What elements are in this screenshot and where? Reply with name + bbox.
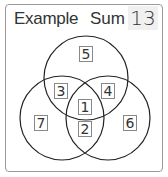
region-right-only: 6 xyxy=(123,115,137,131)
region-top-only: 5 xyxy=(79,46,93,62)
region-left-right: 2 xyxy=(78,121,92,137)
venn-diagram xyxy=(0,0,168,177)
region-top-left: 3 xyxy=(54,83,68,99)
region-top-right: 4 xyxy=(101,83,115,99)
region-center: 1 xyxy=(78,99,92,115)
region-left-only: 7 xyxy=(34,115,48,131)
